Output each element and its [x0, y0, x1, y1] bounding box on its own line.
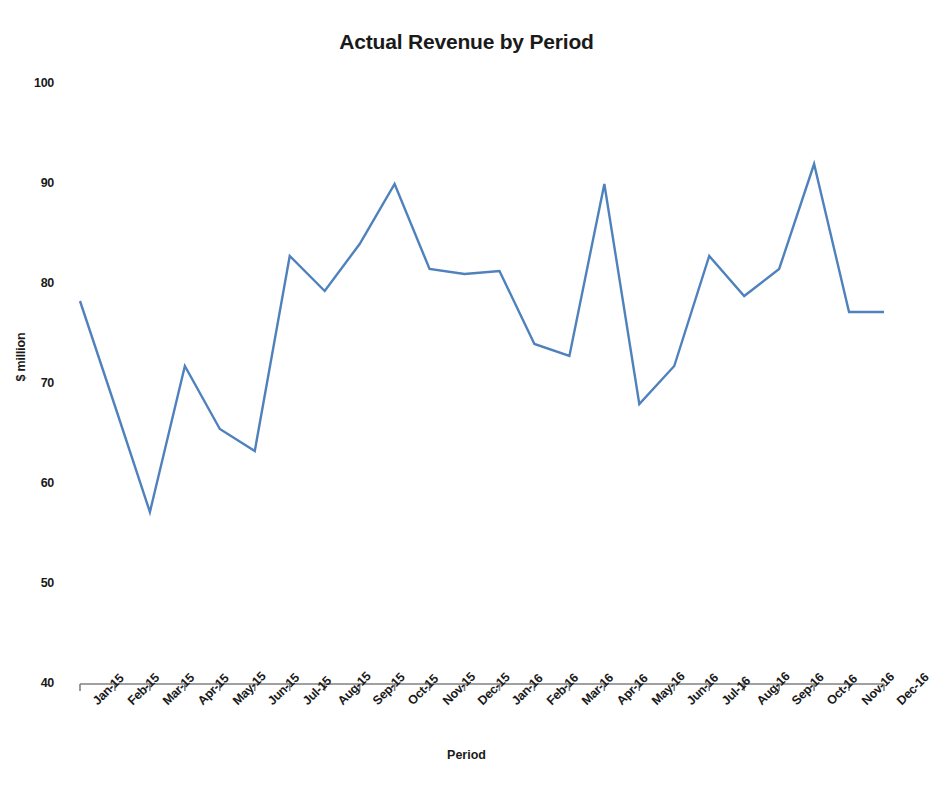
series-line — [80, 164, 884, 512]
data-series-group — [80, 164, 884, 512]
revenue-line-chart: Actual Revenue by Period $ million 10090… — [0, 0, 933, 807]
x-axis-title: Period — [0, 748, 933, 762]
